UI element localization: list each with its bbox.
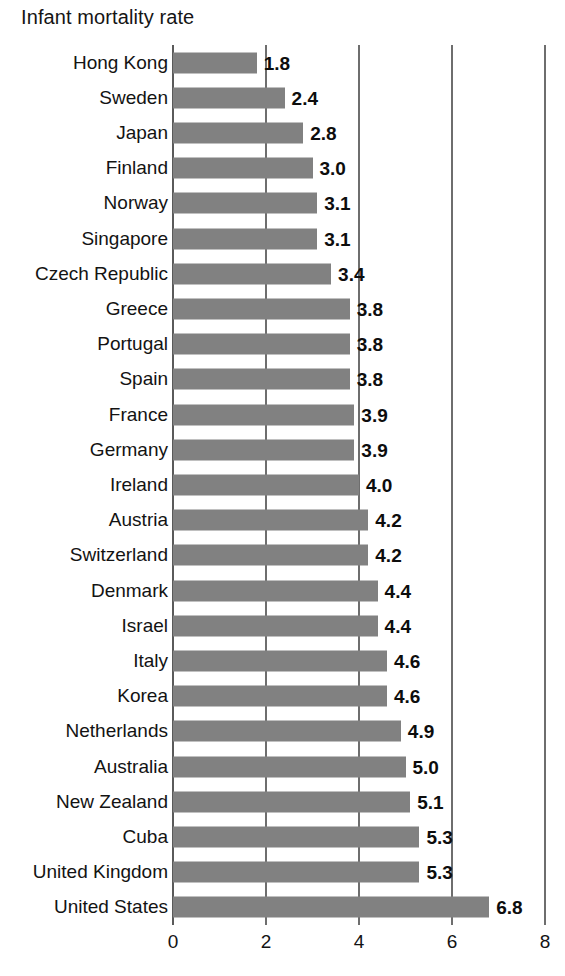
category-label: Sweden <box>99 87 168 109</box>
bar <box>173 439 354 460</box>
bar-value-label: 4.4 <box>385 580 411 601</box>
bar <box>173 298 350 319</box>
category-label: Portugal <box>97 333 168 355</box>
bar-value-label: 1.8 <box>264 52 290 73</box>
bar <box>173 263 331 284</box>
chart-row: Spain3.8 <box>0 362 565 397</box>
bar-value-label: 4.0 <box>366 474 392 495</box>
category-label: Israel <box>122 615 168 637</box>
category-label: Greece <box>106 298 168 320</box>
chart-row: United States6.8 <box>0 890 565 925</box>
category-label: Austria <box>109 509 168 531</box>
bar <box>173 650 387 671</box>
category-label: Finland <box>106 157 168 179</box>
chart-row: France3.9 <box>0 397 565 432</box>
bar <box>173 510 368 531</box>
bar <box>173 580 378 601</box>
chart-row: Sweden2.4 <box>0 80 565 115</box>
category-label: Norway <box>104 192 168 214</box>
category-label: Denmark <box>91 580 168 602</box>
bar-value-label: 3.8 <box>357 298 383 319</box>
chart-row: Japan2.8 <box>0 115 565 150</box>
bar <box>173 193 317 214</box>
category-label: Singapore <box>81 228 168 250</box>
x-axis: 02468 <box>0 930 565 964</box>
category-label: Ireland <box>110 474 168 496</box>
chart-row: Singapore3.1 <box>0 221 565 256</box>
bar-value-label: 5.3 <box>426 862 452 883</box>
bar <box>173 791 410 812</box>
plot-area: Hong Kong1.8Sweden2.4Japan2.8Finland3.0N… <box>0 0 565 976</box>
bar-value-label: 6.8 <box>496 897 522 918</box>
bar-value-label: 5.3 <box>426 826 452 847</box>
chart-row: Australia5.0 <box>0 749 565 784</box>
bar <box>173 369 350 390</box>
bar-value-label: 3.8 <box>357 369 383 390</box>
bar-value-label: 4.6 <box>394 686 420 707</box>
chart-row: Netherlands4.9 <box>0 714 565 749</box>
bar <box>173 862 419 883</box>
chart-row: Korea4.6 <box>0 679 565 714</box>
bar-value-label: 4.6 <box>394 650 420 671</box>
category-label: France <box>109 404 168 426</box>
chart-row: Norway3.1 <box>0 186 565 221</box>
category-label: Italy <box>133 650 168 672</box>
bar-value-label: 3.8 <box>357 334 383 355</box>
chart-row: Czech Republic3.4 <box>0 256 565 291</box>
bar-value-label: 5.1 <box>417 791 443 812</box>
chart-row: United Kingdom5.3 <box>0 855 565 890</box>
chart-row: Greece3.8 <box>0 291 565 326</box>
bar <box>173 686 387 707</box>
bar-value-label: 3.9 <box>361 439 387 460</box>
bar <box>173 228 317 249</box>
bar <box>173 87 285 108</box>
chart-row: Hong Kong1.8 <box>0 45 565 80</box>
category-label: United States <box>54 896 168 918</box>
bar-value-label: 4.4 <box>385 615 411 636</box>
bar-value-label: 2.8 <box>310 122 336 143</box>
x-tick-label: 2 <box>261 930 272 954</box>
category-label: Switzerland <box>70 544 168 566</box>
bar <box>173 545 368 566</box>
category-label: Germany <box>90 439 168 461</box>
x-tick-label: 6 <box>447 930 458 954</box>
bar <box>173 756 406 777</box>
chart-row: Austria4.2 <box>0 503 565 538</box>
bar-value-label: 2.4 <box>292 87 318 108</box>
bar-value-label: 4.9 <box>408 721 434 742</box>
category-label: Korea <box>117 685 168 707</box>
bar <box>173 52 257 73</box>
bar-value-label: 4.2 <box>375 545 401 566</box>
chart-row: Germany3.9 <box>0 432 565 467</box>
chart-row: Switzerland4.2 <box>0 538 565 573</box>
x-tick-label: 0 <box>168 930 179 954</box>
category-label: Cuba <box>123 826 168 848</box>
category-label: United Kingdom <box>33 861 168 883</box>
bar-value-label: 3.4 <box>338 263 364 284</box>
bar-value-label: 4.2 <box>375 510 401 531</box>
bar <box>173 474 359 495</box>
chart-row: Finland3.0 <box>0 151 565 186</box>
bar <box>173 897 489 918</box>
chart-row: New Zealand5.1 <box>0 784 565 819</box>
category-label: Spain <box>119 368 168 390</box>
bar-value-label: 5.0 <box>413 756 439 777</box>
bar <box>173 826 419 847</box>
bar <box>173 122 303 143</box>
category-label: Netherlands <box>66 720 168 742</box>
bar <box>173 721 401 742</box>
bar <box>173 334 350 355</box>
chart-row: Italy4.6 <box>0 643 565 678</box>
bar-value-label: 3.1 <box>324 228 350 249</box>
x-tick-label: 8 <box>540 930 551 954</box>
bar <box>173 404 354 425</box>
bar <box>173 615 378 636</box>
category-label: Hong Kong <box>73 52 168 74</box>
bar-value-label: 3.1 <box>324 193 350 214</box>
chart-row: Cuba5.3 <box>0 819 565 854</box>
chart-row: Denmark4.4 <box>0 573 565 608</box>
infant-mortality-bar-chart: Infant mortality rate Hong Kong1.8Sweden… <box>0 0 565 976</box>
category-label: Japan <box>116 122 168 144</box>
bar-value-label: 3.9 <box>361 404 387 425</box>
x-tick-label: 4 <box>354 930 365 954</box>
